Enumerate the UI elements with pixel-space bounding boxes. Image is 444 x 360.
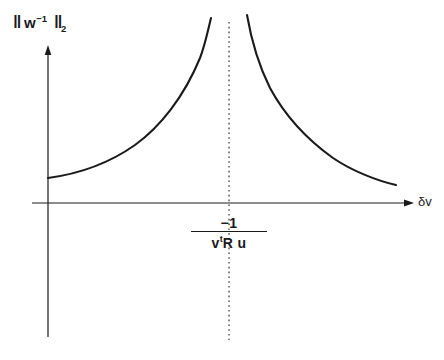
y-axis-arrowhead bbox=[45, 45, 52, 55]
denominator-u: u bbox=[237, 235, 246, 251]
norm-variable: w bbox=[24, 14, 36, 31]
norm-bar-close: ‖ bbox=[54, 14, 61, 32]
x-axis-arrowhead bbox=[404, 200, 414, 207]
plot-svg bbox=[0, 0, 444, 360]
fraction-denominator: vtRu bbox=[186, 232, 272, 250]
fraction-numerator: −1 bbox=[186, 216, 272, 231]
denominator-v: v bbox=[212, 235, 220, 251]
curve-left-branch bbox=[48, 18, 211, 178]
y-axis-label: ‖w−1‖2 bbox=[13, 14, 66, 34]
x-axis-label: δv bbox=[418, 195, 432, 208]
asymptote-value-label: −1 vtRu bbox=[186, 216, 272, 250]
figure-canvas: ‖w−1‖2 δv −1 vtRu bbox=[0, 0, 444, 360]
norm-subscript: 2 bbox=[61, 23, 66, 34]
denominator-R: R bbox=[223, 235, 234, 251]
norm-exponent: −1 bbox=[36, 13, 47, 24]
norm-bar-open: ‖ bbox=[13, 14, 20, 32]
curve-right-branch bbox=[247, 15, 396, 185]
